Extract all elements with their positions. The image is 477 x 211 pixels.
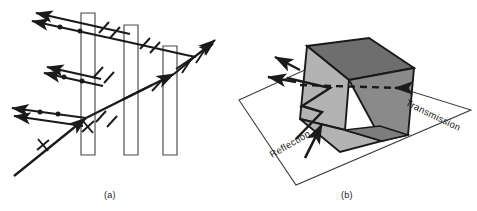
perp-polarization-dot <box>62 75 67 80</box>
perp-polarization-dot <box>56 112 61 117</box>
unpolarized-marker-dot <box>38 139 48 151</box>
caption-b: (b) <box>341 190 353 200</box>
plate-3 <box>163 46 177 155</box>
perp-polarization-dot <box>78 29 83 34</box>
reflected-ray-1b <box>14 116 83 126</box>
reflected-beam-upper <box>275 57 300 70</box>
panel-a <box>12 13 215 176</box>
optics-figure: Transmission Reflection <box>0 0 477 211</box>
reflected-ray-3 <box>32 21 128 42</box>
panel-b: Transmission Reflection <box>239 38 471 185</box>
tick-pair <box>93 67 114 83</box>
tick-pair <box>96 111 117 127</box>
output-polarized-beam <box>174 40 215 74</box>
figure-root: Transmission Reflection (a) (b) <box>0 0 477 211</box>
tick-pair <box>140 38 160 53</box>
perp-polarization-dot <box>80 79 85 84</box>
incident-ray <box>14 118 86 176</box>
perp-polarization-dot <box>38 110 43 115</box>
perp-polarization-dot <box>58 25 63 30</box>
caption-a: (a) <box>104 190 116 200</box>
